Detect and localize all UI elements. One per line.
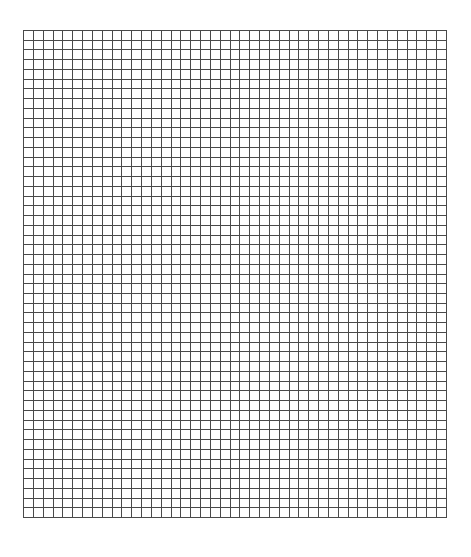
graph-paper-grid: [23, 30, 447, 518]
grid-lines: [23, 30, 447, 518]
